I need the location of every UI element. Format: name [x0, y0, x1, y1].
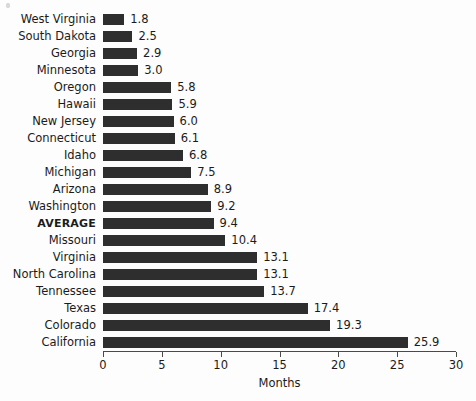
- bar-value-label: 6.1: [181, 130, 199, 147]
- bar-value-label: 6.0: [180, 113, 198, 130]
- bar-value-label: 3.0: [144, 62, 162, 79]
- bar-value-label: 5.9: [178, 96, 196, 113]
- bar-row: New Jersey6.0: [0, 113, 476, 130]
- bar: [103, 150, 183, 161]
- bar-row: Michigan7.5: [0, 164, 476, 181]
- x-axis-title: Months: [258, 376, 300, 390]
- bar: [103, 320, 330, 331]
- category-label: Missouri: [0, 232, 96, 249]
- category-label: Tennessee: [0, 283, 96, 300]
- category-label: North Carolina: [0, 266, 96, 283]
- bar-row: South Dakota2.5: [0, 28, 476, 45]
- bar-value-label: 19.3: [336, 317, 362, 334]
- bar-row: Texas17.4: [0, 300, 476, 317]
- category-label: Minnesota: [0, 62, 96, 79]
- bar-value-label: 13.1: [263, 266, 289, 283]
- x-axis-tick-label: 20: [331, 358, 346, 372]
- bar-row: AVERAGE9.4: [0, 215, 476, 232]
- bar-row: Minnesota3.0: [0, 62, 476, 79]
- bar-row: West Virginia1.8: [0, 11, 476, 28]
- category-label: Colorado: [0, 317, 96, 334]
- x-axis-tick: [397, 352, 398, 357]
- bar-row: Washington9.2: [0, 198, 476, 215]
- bar: [103, 269, 257, 280]
- bar-row: Colorado19.3: [0, 317, 476, 334]
- category-label: Washington: [0, 198, 96, 215]
- x-axis-tick-label: 0: [99, 358, 106, 372]
- bar: [103, 286, 264, 297]
- bar-value-label: 10.4: [231, 232, 257, 249]
- bar-value-label: 7.5: [197, 164, 215, 181]
- category-label: Oregon: [0, 79, 96, 96]
- bar-row: Arizona8.9: [0, 181, 476, 198]
- category-label-average: AVERAGE: [0, 215, 96, 232]
- bar: [103, 116, 174, 127]
- x-axis-tick: [338, 352, 339, 357]
- category-label: Virginia: [0, 249, 96, 266]
- bar-value-label: 1.8: [130, 11, 148, 28]
- bar-row: Missouri10.4: [0, 232, 476, 249]
- category-label: New Jersey: [0, 113, 96, 130]
- x-axis-tick: [456, 352, 457, 357]
- bar: [103, 167, 191, 178]
- bar-row: Idaho6.8: [0, 147, 476, 164]
- bar: [103, 201, 211, 212]
- bar: [103, 252, 257, 263]
- bar-row: Georgia2.9: [0, 45, 476, 62]
- bar-row: Oregon5.8: [0, 79, 476, 96]
- bar-row: North Carolina13.1: [0, 266, 476, 283]
- bar-value-label: 17.4: [314, 300, 340, 317]
- x-axis-tick: [103, 352, 104, 357]
- bar-row: California25.9: [0, 334, 476, 351]
- bar-value-label: 13.7: [270, 283, 296, 300]
- category-label: Arizona: [0, 181, 96, 198]
- category-label: Georgia: [0, 45, 96, 62]
- x-axis-tick: [280, 352, 281, 357]
- category-label: Texas: [0, 300, 96, 317]
- bar-row: Connecticut6.1: [0, 130, 476, 147]
- bar-row: Tennessee13.7: [0, 283, 476, 300]
- bar: [103, 99, 172, 110]
- bar: [103, 337, 408, 348]
- x-axis-tick: [162, 352, 163, 357]
- bar: [103, 184, 208, 195]
- plot-area: West Virginia1.8South Dakota2.5Georgia2.…: [0, 0, 476, 401]
- x-axis-tick-label: 30: [449, 358, 464, 372]
- bar: [103, 48, 137, 59]
- category-label: South Dakota: [0, 28, 96, 45]
- bar: [103, 218, 214, 229]
- category-label: Idaho: [0, 147, 96, 164]
- bar: [103, 14, 124, 25]
- category-label: Michigan: [0, 164, 96, 181]
- bar-chart: West Virginia1.8South Dakota2.5Georgia2.…: [0, 0, 476, 401]
- x-axis-tick-label: 5: [158, 358, 165, 372]
- bar: [103, 65, 138, 76]
- bar: [103, 133, 175, 144]
- x-axis-tick-label: 15: [272, 358, 287, 372]
- bar: [103, 82, 171, 93]
- bar-value-label: 25.9: [414, 334, 440, 351]
- bar-value-label: 2.5: [138, 28, 156, 45]
- category-label: Connecticut: [0, 130, 96, 147]
- bar: [103, 235, 225, 246]
- category-label: California: [0, 334, 96, 351]
- bar: [103, 31, 132, 42]
- x-axis-tick-label: 10: [213, 358, 228, 372]
- bar-value-label: 9.2: [217, 198, 235, 215]
- bar-value-label: 2.9: [143, 45, 161, 62]
- bar-value-label: 13.1: [263, 249, 289, 266]
- bar-value-label: 8.9: [214, 181, 232, 198]
- category-label: Hawaii: [0, 96, 96, 113]
- bar-row: Virginia13.1: [0, 249, 476, 266]
- bar-row: Hawaii5.9: [0, 96, 476, 113]
- x-axis-tick: [221, 352, 222, 357]
- bar-value-label: 9.4: [220, 215, 238, 232]
- bar: [103, 303, 308, 314]
- x-axis-tick-label: 25: [390, 358, 405, 372]
- bar-value-label: 5.8: [177, 79, 195, 96]
- category-label: West Virginia: [0, 11, 96, 28]
- bar-value-label: 6.8: [189, 147, 207, 164]
